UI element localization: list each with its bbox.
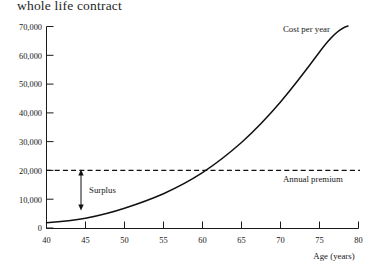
- x-tick-label-65: 65: [237, 236, 245, 245]
- arrow-head-down: [78, 205, 83, 211]
- y-tick-label-40000: 40,000: [19, 109, 42, 118]
- y-axis-ticks: [47, 27, 54, 229]
- x-tick-label-55: 55: [159, 236, 167, 245]
- y-tick-label-10000: 10,000: [19, 196, 42, 205]
- y-tick-label-0: 0: [38, 224, 42, 233]
- y-tick-label-30000: 30,000: [19, 138, 42, 147]
- x-axis-title: Age (years): [313, 251, 354, 261]
- cost-per-year-label: Cost per year: [283, 24, 330, 34]
- y-tick-label-50000: 50,000: [19, 80, 42, 89]
- x-tick-label-60: 60: [198, 236, 206, 245]
- x-tick-label-45: 45: [81, 236, 89, 245]
- y-tick-label-60000: 60,000: [19, 52, 42, 61]
- surplus-arrow: [78, 170, 83, 211]
- annual-premium-label: Annual premium: [283, 174, 343, 184]
- whole-life-cost-chart: 70,000 60,000 50,000 40,000 30,000 20,00…: [0, 0, 374, 265]
- surplus-label: Surplus: [89, 185, 116, 195]
- y-tick-label-20000: 20,000: [19, 167, 42, 176]
- x-axis-ticks: [47, 222, 359, 229]
- x-tick-label-40: 40: [42, 236, 50, 245]
- x-tick-label-80: 80: [354, 236, 362, 245]
- y-tick-label-70000: 70,000: [19, 23, 42, 32]
- x-tick-label-50: 50: [120, 236, 128, 245]
- x-tick-label-70: 70: [276, 236, 284, 245]
- x-tick-label-75: 75: [315, 236, 323, 245]
- chart-page: whole life contract 70,000 60,000 50,000…: [0, 0, 374, 265]
